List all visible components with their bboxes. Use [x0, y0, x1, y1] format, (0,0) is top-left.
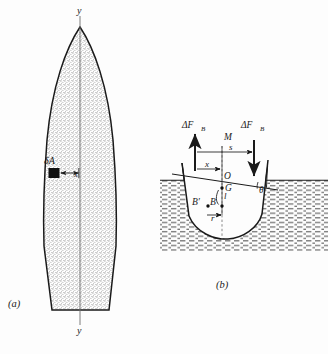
center-of-gravity-point — [220, 186, 223, 189]
origin-label-O: O — [224, 171, 231, 181]
force-label-right-subscript: B — [260, 125, 265, 133]
metacenter-label-M: M — [223, 132, 233, 142]
shift-label-r: r — [211, 213, 215, 223]
figure-canvas: x δA y y (a) ΔF — [0, 0, 328, 354]
buoyancy-center-point-B — [220, 204, 223, 207]
separation-label-s: s — [229, 142, 233, 152]
offset-label-x-b: x — [204, 159, 209, 169]
offset-label-x: x — [73, 169, 78, 179]
axis-label-y-top: y — [76, 5, 82, 16]
force-label-left-subscript: B — [201, 125, 206, 133]
force-label-right: ΔF — [240, 120, 253, 130]
panel-label-a: (a) — [8, 298, 21, 310]
force-label-left: ΔF — [181, 120, 194, 130]
buoyancy-label-B-prime: B′ — [192, 197, 201, 207]
axis-label-y-bottom: y — [76, 325, 82, 336]
buoyancy-label-B: B — [210, 197, 216, 207]
figure-page: x δA y y (a) ΔF — [0, 0, 328, 354]
area-element-square — [49, 168, 60, 178]
area-element-label: δA — [44, 155, 56, 166]
heel-angle-label-theta: θ — [259, 185, 264, 195]
panel-label-b: (b) — [216, 279, 229, 291]
